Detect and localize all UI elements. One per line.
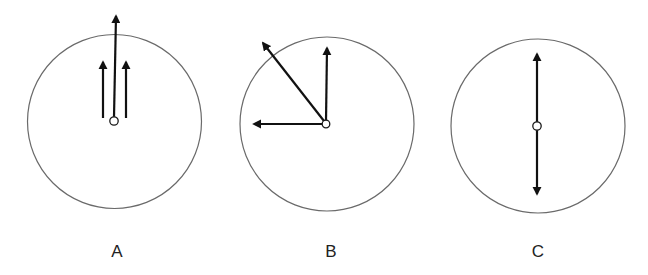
panel-c: C — [451, 39, 625, 261]
origin-point-c — [533, 122, 541, 130]
panel-b: B — [240, 37, 414, 261]
vector-diagram: A B C — [0, 0, 648, 275]
panel-label-a: A — [111, 242, 123, 261]
diagonal-arrow — [263, 43, 324, 121]
origin-point-b — [322, 120, 330, 128]
long-center-arrow — [114, 16, 116, 117]
panel-a: A — [28, 16, 202, 261]
up-arrow — [326, 48, 327, 121]
panel-label-c: C — [532, 242, 544, 261]
origin-point-a — [110, 117, 118, 125]
panel-label-b: B — [325, 242, 336, 261]
